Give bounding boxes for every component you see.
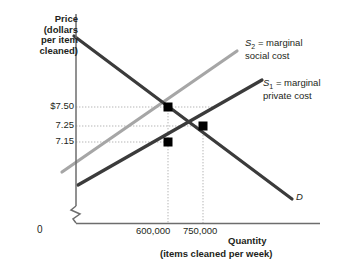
- supply-demand-chart: Price(dollarsper itemcleaned) $7.50 7.25…: [0, 0, 340, 276]
- x-axis-title: Quantity: [228, 236, 267, 247]
- s2-text: = marginal: [255, 37, 302, 48]
- y-tick-label-7-15: 7.15: [24, 136, 74, 147]
- y-axis-break-icon: [71, 206, 80, 223]
- s1-text-line2: private cost: [263, 90, 312, 101]
- x-tick-label-600000: 600,000: [136, 226, 170, 237]
- marker-750k-7-25: [199, 122, 208, 131]
- curve-label-demand: D: [296, 192, 303, 203]
- y-tick-label-7-50: $7.50: [24, 101, 74, 112]
- s1-text: = marginal: [273, 77, 320, 88]
- s2-text-line2: social cost: [245, 50, 289, 61]
- marker-600k-7-50: [164, 103, 173, 112]
- y-tick-label-7-25: 7.25: [24, 120, 74, 131]
- curve-label-s2: S2 = marginalsocial cost: [245, 38, 303, 61]
- marker-600k-7-15: [164, 138, 173, 147]
- curve-label-s1: S1 = marginalprivate cost: [263, 78, 321, 101]
- origin-label: 0: [37, 224, 43, 235]
- curve-s2-marginal-social-cost: [62, 51, 237, 172]
- x-axis-subtitle: (items cleaned per week): [160, 249, 272, 260]
- y-axis-title: Price(dollarsper itemcleaned): [16, 14, 78, 57]
- x-tick-label-750000: 750,000: [183, 226, 217, 237]
